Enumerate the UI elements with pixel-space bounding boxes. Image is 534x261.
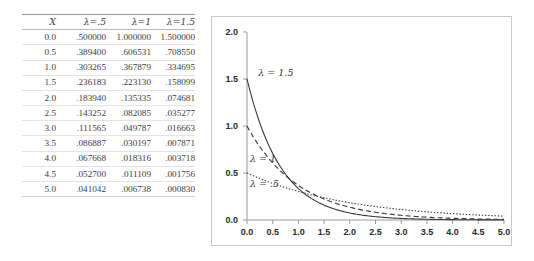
cell-pdf-lambda-1-5: .007871	[151, 136, 195, 151]
y-tick-label: 2.0	[225, 27, 238, 37]
cell-pdf-lambda-1-5: .074681	[151, 90, 195, 105]
x-tick-label: 2.0	[344, 227, 357, 237]
y-tick-label: 0.0	[225, 215, 238, 225]
table-row: 0.0.5000001.0000001.500000	[22, 30, 195, 45]
exponential-pdf-chart: 0.00.51.01.52.0 0.00.51.01.52.02.53.03.5…	[211, 16, 512, 246]
cell-pdf-lambda-0-5: .041042	[56, 181, 106, 196]
series-annotation: λ = 1.5	[257, 67, 293, 78]
cell-pdf-lambda-1: 1.000000	[106, 30, 151, 45]
x-tick-label: 1.0	[292, 227, 305, 237]
column-header-lambda-0-5: λ=.5	[56, 15, 106, 30]
cell-pdf-lambda-1: .030197	[106, 136, 151, 151]
x-tick-label: 4.0	[446, 227, 459, 237]
cell-pdf-lambda-1-5: .158099	[151, 75, 195, 90]
y-axis: 0.00.51.01.52.0	[225, 27, 247, 225]
column-header-x: X	[22, 15, 56, 30]
cell-x-value: 4.5	[22, 166, 56, 181]
table-row: 1.0.303265.367879.334695	[22, 60, 195, 75]
cell-pdf-lambda-1-5: .035277	[151, 106, 195, 121]
cell-pdf-lambda-0-5: .303265	[56, 60, 106, 75]
cell-pdf-lambda-1: .049787	[106, 121, 151, 136]
cell-x-value: 3.5	[22, 136, 56, 151]
cell-pdf-lambda-0-5: .086887	[56, 136, 106, 151]
cell-pdf-lambda-0-5: .500000	[56, 30, 106, 45]
table-row: 2.0.183940.135335.074681	[22, 90, 195, 105]
cell-pdf-lambda-1-5: .003718	[151, 151, 195, 166]
cell-pdf-lambda-0-5: .389400	[56, 45, 106, 60]
x-tick-label: 2.5	[369, 227, 382, 237]
cell-pdf-lambda-1: .011109	[106, 166, 151, 181]
cell-pdf-lambda-1: .018316	[106, 151, 151, 166]
table-row: 0.5.389400.606531.708550	[22, 45, 195, 60]
cell-pdf-lambda-1-5: .001756	[151, 166, 195, 181]
cell-x-value: 1.5	[22, 75, 56, 90]
chart-series-curves	[247, 79, 504, 220]
column-header-lambda-1-5: λ=1.5	[151, 15, 195, 30]
cell-pdf-lambda-1: .223130	[106, 75, 151, 90]
x-tick-label: 0.0	[241, 227, 254, 237]
y-tick-label: 0.5	[225, 168, 238, 178]
cell-x-value: 0.5	[22, 45, 56, 60]
cell-pdf-lambda-1-5: .334695	[151, 60, 195, 75]
cell-x-value: 2.5	[22, 106, 56, 121]
chart-canvas: 0.00.51.01.52.0 0.00.51.01.52.02.53.03.5…	[212, 17, 511, 245]
cell-pdf-lambda-1-5: 1.500000	[151, 30, 195, 45]
series-annotation: λ = 1	[249, 153, 276, 164]
cell-x-value: 5.0	[22, 181, 56, 196]
curve-dotted	[247, 173, 504, 216]
cell-x-value: 2.0	[22, 90, 56, 105]
table-row: 1.5.236183.223130.158099	[22, 75, 195, 90]
cell-pdf-lambda-1: .006738	[106, 181, 151, 196]
x-axis: 0.00.51.01.52.02.53.03.54.04.55.0	[241, 220, 511, 237]
x-tick-label: 3.5	[421, 227, 434, 237]
table-head: X λ=.5 λ=1 λ=1.5	[22, 15, 195, 30]
x-tick-label: 0.5	[266, 227, 279, 237]
cell-pdf-lambda-0-5: .143252	[56, 106, 106, 121]
x-tick-label: 4.5	[472, 227, 485, 237]
y-tick-label: 1.0	[225, 121, 238, 131]
table-row: 4.5.052700.011109.001756	[22, 166, 195, 181]
table-row: 3.0.111565.049787.016663	[22, 121, 195, 136]
x-tick-label: 5.0	[498, 227, 511, 237]
table-row: 4.0.067668.018316.003718	[22, 151, 195, 166]
curve-dashed	[247, 126, 504, 219]
y-tick-label: 1.5	[225, 74, 238, 84]
cell-pdf-lambda-1: .082085	[106, 106, 151, 121]
exponential-pdf-table: X λ=.5 λ=1 λ=1.5 0.0.5000001.0000001.500…	[22, 14, 195, 197]
cell-pdf-lambda-1-5: .000830	[151, 181, 195, 196]
cell-pdf-lambda-0-5: .183940	[56, 90, 106, 105]
cell-x-value: 3.0	[22, 121, 56, 136]
cell-pdf-lambda-0-5: .111565	[56, 121, 106, 136]
cell-pdf-lambda-0-5: .052700	[56, 166, 106, 181]
cell-pdf-lambda-1-5: .708550	[151, 45, 195, 60]
table-body: 0.0.5000001.0000001.5000000.5.389400.606…	[22, 30, 195, 197]
cell-x-value: 1.0	[22, 60, 56, 75]
x-tick-label: 3.0	[395, 227, 408, 237]
table-row: 5.0.041042.006738.000830	[22, 181, 195, 196]
table-row: 3.5.086887.030197.007871	[22, 136, 195, 151]
cell-pdf-lambda-1: .367879	[106, 60, 151, 75]
x-tick-label: 1.5	[318, 227, 331, 237]
column-header-lambda-1: λ=1	[106, 15, 151, 30]
cell-pdf-lambda-1: .606531	[106, 45, 151, 60]
table-row: 2.5.143252.082085.035277	[22, 106, 195, 121]
cell-pdf-lambda-1: .135335	[106, 90, 151, 105]
distribution-table-panel: X λ=.5 λ=1 λ=1.5 0.0.5000001.0000001.500…	[0, 0, 205, 261]
cell-pdf-lambda-0-5: .067668	[56, 151, 106, 166]
series-annotation: λ = .5	[249, 178, 279, 189]
cell-pdf-lambda-0-5: .236183	[56, 75, 106, 90]
chart-series-annotations: λ = 1.5λ = 1λ = .5	[249, 67, 293, 188]
table-header-row: X λ=.5 λ=1 λ=1.5	[22, 15, 195, 30]
cell-x-value: 0.0	[22, 30, 56, 45]
curve-solid	[247, 79, 504, 220]
cell-pdf-lambda-1-5: .016663	[151, 121, 195, 136]
cell-x-value: 4.0	[22, 151, 56, 166]
